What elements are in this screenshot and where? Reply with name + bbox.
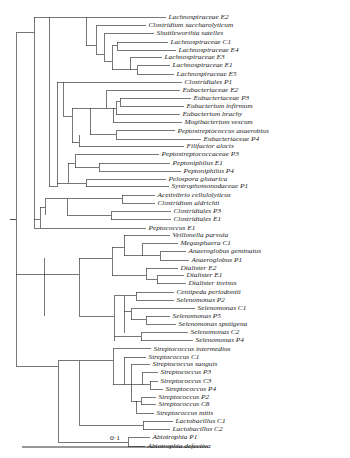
taxon-label: Selenomonas P4 <box>196 337 245 345</box>
taxon-label: Lachnospiraceae E1 <box>171 62 232 70</box>
taxon-label: Veillonella parvula <box>173 231 229 239</box>
phylogenetic-tree-figure: Lachnospiraceae E2Clostridium saccharoly… <box>0 0 350 458</box>
taxon-label: Lachnospiraceae E5 <box>175 70 237 78</box>
taxon-label: Lactobacillus C1 <box>174 417 225 425</box>
taxon-label: Acetivibrio cellulolyticus <box>156 191 231 199</box>
taxon-label: Lachnospiraceae E3 <box>163 54 225 62</box>
tree-canvas: Lachnospiraceae E2Clostridium saccharoly… <box>0 0 350 458</box>
taxon-label: Streptococcus P4 <box>166 385 217 393</box>
scale-bar-label: 0·1 <box>110 434 120 442</box>
taxon-label: Streptococcus intermedius <box>154 345 231 353</box>
taxon-label: Dialister E1 <box>185 272 222 280</box>
taxon-label: Clostridiales E1 <box>174 216 222 224</box>
taxon-label: Selenomonas C2 <box>191 328 240 336</box>
taxon-label: Abiotrophia P1 <box>151 434 197 442</box>
taxon-label: Eubacterium brachy <box>181 110 243 118</box>
taxon-label: Streptococcus P3 <box>161 369 212 377</box>
taxon-label: Lachnospiraceae E2 <box>167 13 229 21</box>
taxon-label: Clostridium aldrichii <box>158 199 220 207</box>
taxon-label: Clostridium saccharolyticum <box>149 21 234 29</box>
taxon-label: Mogibacterium vescum <box>183 119 252 127</box>
taxon-label: Streptococcus C3 <box>161 377 213 385</box>
taxon-label: Streptococcus mitis <box>157 409 214 417</box>
taxon-label: Anaeroglobus geminatus <box>187 248 261 256</box>
tree-leaf-labels: Lachnospiraceae E2Clostridium saccharoly… <box>146 13 269 449</box>
taxon-label: Peptostreptococcus anaerobius <box>176 127 269 135</box>
taxon-label: Peptostreptococcaceae P3 <box>160 151 239 159</box>
taxon-label: Lactobacillus C2 <box>171 425 223 433</box>
taxon-label: Filifactor alocis <box>185 142 234 150</box>
taxon-label: Streptococcus sanguis <box>153 360 218 368</box>
taxon-label: Dialister invisus <box>187 280 236 288</box>
taxon-label: Syntrophomonodaceae P1 <box>172 183 249 191</box>
taxon-label: Anaeroglobus P1 <box>190 256 242 264</box>
taxon-label: Megasphaera C1 <box>179 239 231 247</box>
taxon-label: Selenomonas P5 <box>173 312 222 320</box>
taxon-label: Selenomonas P2 <box>177 296 226 304</box>
taxon-label: Selenomonas sputigena <box>179 320 248 328</box>
taxon-label: Shuttleworthia satelles <box>157 30 224 38</box>
taxon-label: Eubacteriaceae P3 <box>192 94 249 102</box>
taxon-label: Peptoniphilus E1 <box>171 159 223 167</box>
taxon-label: Abiotrophia defectiva <box>146 442 211 450</box>
taxon-label: Lachnospiraceae C1 <box>169 38 231 46</box>
taxon-label: Peptoniphilus P4 <box>182 167 234 175</box>
taxon-label: Centipeda periodontii <box>177 288 241 296</box>
taxon-label: Clostridiales P3 <box>174 207 222 215</box>
taxon-label: Clostridiales P1 <box>185 78 233 86</box>
taxon-label: Eubacterium infirmum <box>185 102 252 110</box>
taxon-label: Streptococcus C8 <box>159 401 211 409</box>
